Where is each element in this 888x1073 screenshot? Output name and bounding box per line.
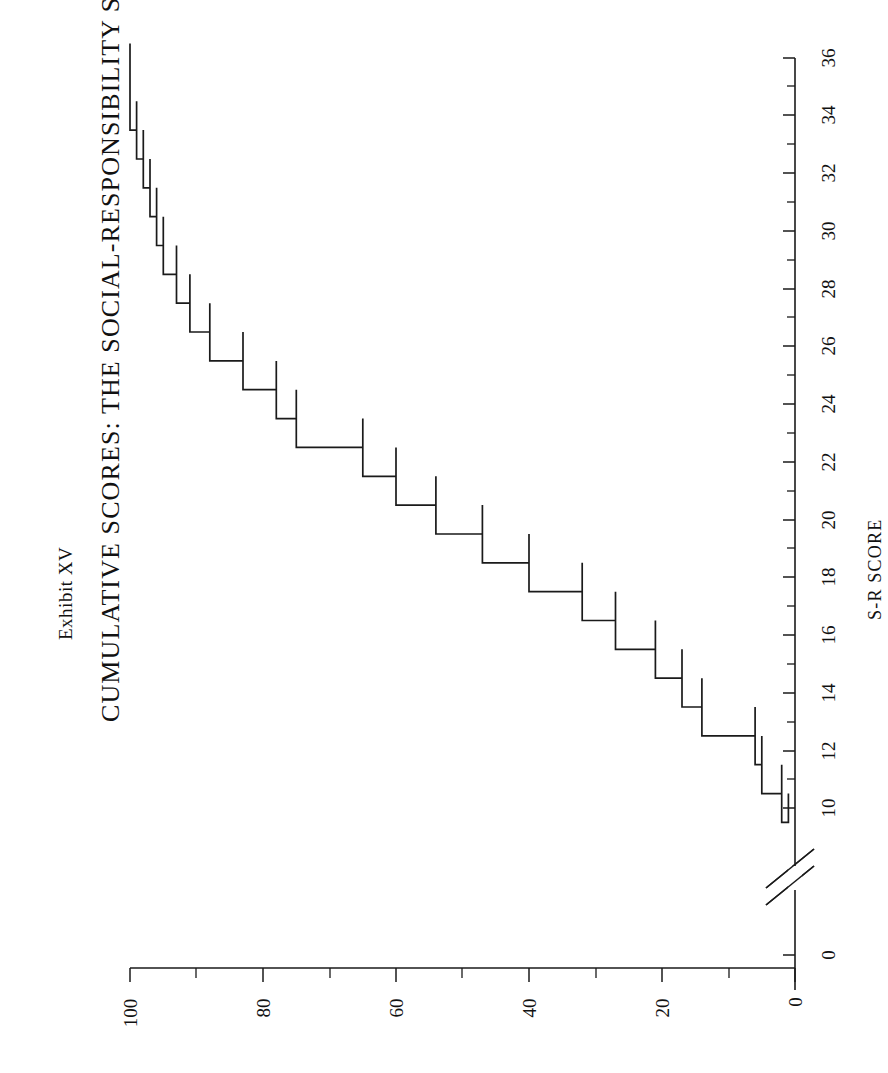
x-tick-label: 10 [818,799,839,818]
x-tick-label: 24 [818,394,839,414]
y-tick-label: 20 [652,999,673,1018]
x-tick-label: 32 [818,164,839,183]
figure-page: Exhibit XV CUMULATIVE SCORES: THE SOCIAL… [0,0,888,1073]
x-tick-label: 22 [818,453,839,472]
y-tick-label: 100 [120,999,141,1028]
x-tick-label: 26 [818,337,839,356]
y-axis-tick-labels: 100 80 60 40 20 0 [120,997,806,1027]
cumulative-step-chart: 36 34 32 30 28 26 24 22 20 18 16 14 12 1… [0,0,888,1073]
x-tick-label: 12 [818,742,839,761]
cumulative-step-line [130,44,788,823]
x-tick-label: 28 [818,280,839,299]
x-tick-label: 20 [818,511,839,530]
x-tick-label-zero: 0 [818,950,839,960]
y-tick-label: 40 [519,999,540,1018]
x-tick-label: 18 [818,568,839,587]
x-axis-tick-labels: 36 34 32 30 28 26 24 22 20 18 16 14 12 1… [818,49,839,960]
y-tick-label: 80 [253,999,274,1018]
x-tick-label: 36 [818,49,839,68]
y-tick-label: 0 [785,997,806,1007]
y-axis-ticks [130,968,795,982]
x-tick-label: 34 [818,105,839,125]
y-tick-label: 60 [386,999,407,1018]
x-tick-label: 30 [818,222,839,241]
x-tick-label: 16 [818,626,839,645]
x-tick-label: 14 [818,683,839,703]
axis-break-marker [766,849,814,905]
